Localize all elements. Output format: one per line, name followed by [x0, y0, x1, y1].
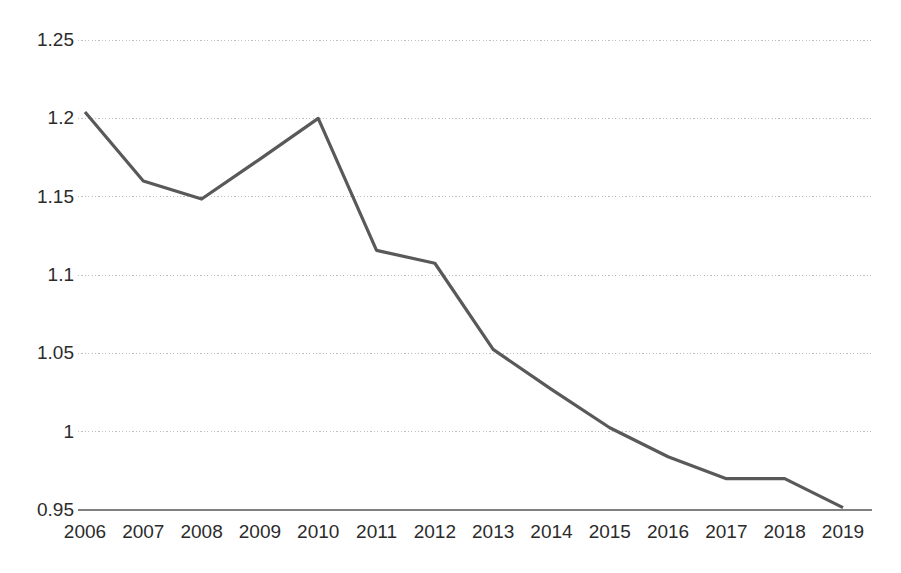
x-axis-tick-label: 2013	[472, 522, 514, 541]
x-axis-tick-label: 2017	[705, 522, 747, 541]
x-axis-tick-label: 2010	[297, 522, 339, 541]
x-axis-tick-label: 2007	[122, 522, 164, 541]
x-axis-tick-label: 2018	[764, 522, 806, 541]
x-axis-tick-label: 2011	[356, 522, 397, 541]
x-axis-tick-label: 2006	[64, 522, 106, 541]
line-chart: 1.251.21.151.11.0510.95 2006200720082009…	[0, 0, 901, 573]
x-axis-tick-label: 2015	[589, 522, 631, 541]
x-axis-tick-label: 2014	[530, 522, 572, 541]
x-axis-tick-label: 2008	[180, 522, 222, 541]
x-axis-tick-label: 2019	[822, 522, 864, 541]
x-axis-tick-label: 2009	[239, 522, 281, 541]
x-axis-tick-labels: 2006200720082009201020112012201320142015…	[0, 0, 901, 573]
x-axis-tick-label: 2016	[647, 522, 689, 541]
x-axis-tick-label: 2012	[414, 522, 456, 541]
